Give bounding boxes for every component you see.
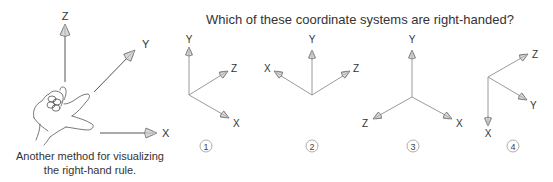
- arrow-icon: [272, 68, 283, 79]
- hand-z-label: Z: [62, 10, 69, 22]
- arrow-icon: [485, 117, 492, 126]
- z-arrow-icon: [60, 24, 70, 37]
- arrow-icon: [340, 68, 351, 79]
- coordinate-system-3: Y Z X 3: [362, 34, 463, 152]
- s2-number: 2: [309, 142, 314, 152]
- hand-icon: [33, 87, 93, 145]
- arrow-icon: [442, 112, 453, 122]
- s4-z-label: Z: [532, 49, 538, 60]
- question-title: Which of these coordinate systems are ri…: [206, 12, 514, 27]
- hand-x-label: X: [162, 127, 170, 139]
- s2-z-label: Z: [353, 63, 359, 74]
- arrow-icon: [218, 68, 229, 79]
- hand-y-label: Y: [142, 38, 150, 50]
- s4-y-label: Y: [530, 100, 537, 111]
- arrow-icon: [309, 50, 316, 59]
- arrow-icon: [371, 112, 382, 122]
- s4-number: 4: [510, 142, 515, 152]
- s3-x-label: X: [456, 118, 463, 129]
- caption-line-1: Another method for visualizing: [16, 150, 164, 162]
- arrow-icon: [186, 47, 193, 56]
- arrow-icon: [219, 110, 230, 121]
- arrow-icon: [518, 51, 529, 62]
- coordinate-system-2: Y X Z 2: [264, 34, 359, 152]
- s4-x-label: X: [485, 128, 492, 139]
- s3-y-label: Y: [409, 34, 416, 45]
- x-arrow-icon: [145, 128, 158, 138]
- s1-z-label: Z: [231, 63, 237, 74]
- s1-number: 1: [203, 142, 208, 152]
- arrow-icon: [517, 92, 528, 103]
- s1-x-label: X: [233, 118, 240, 129]
- caption-line-2: the right-hand rule.: [44, 164, 136, 176]
- s2-x-label: X: [264, 63, 271, 74]
- arrow-icon: [409, 50, 416, 59]
- coordinate-system-1: Y Z X 1: [186, 34, 241, 152]
- s3-number: 3: [410, 142, 415, 152]
- hand-rule-figure: Z Y X Another method for visualizing the…: [16, 10, 170, 176]
- coordinate-system-4: Z Y X 4: [485, 49, 539, 152]
- s1-y-label: Y: [186, 34, 193, 45]
- s2-y-label: Y: [309, 34, 316, 45]
- s3-z-label: Z: [362, 118, 368, 129]
- diagram-canvas: Which of these coordinate systems are ri…: [0, 0, 553, 182]
